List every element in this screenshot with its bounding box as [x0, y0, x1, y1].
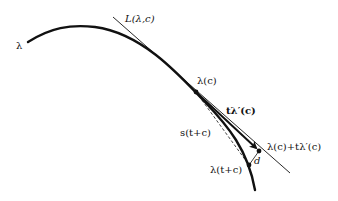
label-tangent-line: L(λ,c): [124, 13, 155, 24]
label-secant: s(t+c): [180, 127, 211, 138]
tangent-line: [113, 17, 290, 173]
label-tangent-vector: tλ′(c): [226, 105, 256, 116]
label-point-on-curve: λ(c): [197, 75, 217, 86]
point-lambda-c: [194, 90, 199, 95]
point-lambda-t-plus-c: [247, 163, 252, 168]
diagram-canvas: λ L(λ,c) λ(c) tλ′(c) s(t+c) λ(c)+tλ′(c) …: [0, 0, 338, 201]
tangent-vector-arrow: [196, 92, 256, 148]
point-tangent-end: [257, 149, 262, 154]
label-curve: λ: [16, 40, 23, 51]
label-curve-point: λ(t+c): [210, 164, 242, 175]
label-tangent-point: λ(c)+tλ′(c): [267, 141, 321, 152]
label-distance: d: [254, 155, 260, 166]
